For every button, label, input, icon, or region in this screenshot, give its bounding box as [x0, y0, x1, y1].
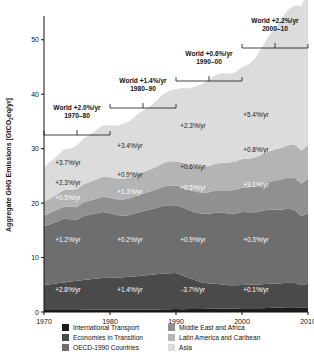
y-tick-label: 20: [31, 200, 39, 207]
y-tick-label: 0: [35, 309, 39, 316]
growth-label: +0.2%/yr: [117, 236, 143, 244]
legend-label: Middle East and Africa: [179, 324, 245, 331]
period-annotation-rate: World +1.4%/yr: [119, 77, 167, 85]
period-annotation-years: 1980–90: [130, 85, 156, 92]
growth-label: +1.2%/yr: [55, 236, 81, 244]
period-annotation-years: 1970–80: [64, 112, 90, 119]
period-annotation-years: 2000–10: [262, 25, 288, 32]
growth-label: +3.4%/yr: [117, 142, 143, 150]
legend-swatch: [168, 324, 175, 331]
period-annotation-rate: World +2.2%/yr: [251, 17, 299, 25]
growth-label: +0.6%/yr: [180, 163, 206, 171]
growth-label: +0.1%/yr: [243, 286, 269, 294]
legend-label: Asia: [179, 344, 192, 351]
y-tick-label: 30: [31, 145, 39, 152]
legend-item[interactable]: OECD-1990 Countries: [62, 344, 140, 351]
legend-swatch: [62, 334, 69, 341]
legend-swatch: [168, 334, 175, 341]
growth-label: +3.7%/yr: [55, 159, 81, 167]
growth-label: +2.3%/yr: [55, 179, 81, 187]
growth-label: +0.5%/yr: [180, 184, 206, 192]
growth-label: +0.9%/yr: [117, 171, 143, 179]
legend-label: International Transport: [73, 324, 139, 332]
legend-item[interactable]: Middle East and Africa: [168, 324, 245, 331]
growth-label: +1.4%/yr: [117, 286, 143, 294]
legend-item[interactable]: International Transport: [62, 324, 139, 332]
growth-label: +2.3%/yr: [180, 122, 206, 130]
y-tick-label: 50: [31, 36, 39, 43]
legend-swatch: [62, 324, 69, 331]
y-tick-label: 10: [31, 254, 39, 261]
period-annotation-rate: World +0.6%/yr: [185, 50, 233, 58]
growth-label: +0.9%/yr: [180, 236, 206, 244]
legend-label: Economies in Transition: [73, 334, 143, 341]
x-tick-label: 2010: [300, 318, 314, 325]
period-annotation-rate: World +2.0%/yr: [53, 104, 101, 112]
y-tick-label: 40: [31, 91, 39, 98]
legend-item[interactable]: Asia: [168, 344, 192, 351]
plot-areas: [44, 0, 308, 312]
legend-swatch: [62, 344, 69, 351]
legend-label: OECD-1990 Countries: [73, 344, 140, 351]
growth-label: +3.1%/yr: [243, 181, 269, 189]
legend-swatch: [168, 344, 175, 351]
stacked-area-chart: 0102030405019701980199020002010 +3.7%/yr…: [0, 0, 314, 361]
legend: International TransportEconomies in Tran…: [62, 324, 261, 351]
legend-label: Latin America and Caribean: [179, 334, 261, 341]
growth-label: +1.3%/yr: [117, 188, 143, 196]
growth-label: +0.8%/yr: [243, 146, 269, 154]
growth-label: +5.4%/yr: [243, 111, 269, 119]
y-axis-title: Aggregate GHG Emissions [GtCO2eq/yr]: [5, 98, 14, 232]
growth-label: -3.7%/yr: [181, 286, 206, 294]
legend-item[interactable]: Economies in Transition: [62, 334, 143, 341]
x-tick-label: 1970: [36, 318, 52, 325]
growth-label: +0.3%/yr: [243, 236, 269, 244]
growth-label: +2.8%/yr: [55, 286, 81, 294]
chart-figure: 0102030405019701980199020002010 +3.7%/yr…: [0, 0, 314, 361]
period-annotation-years: 1990–00: [196, 58, 222, 65]
growth-label: +0.5%/yr: [55, 194, 81, 202]
legend-item[interactable]: Latin America and Caribean: [168, 334, 261, 341]
